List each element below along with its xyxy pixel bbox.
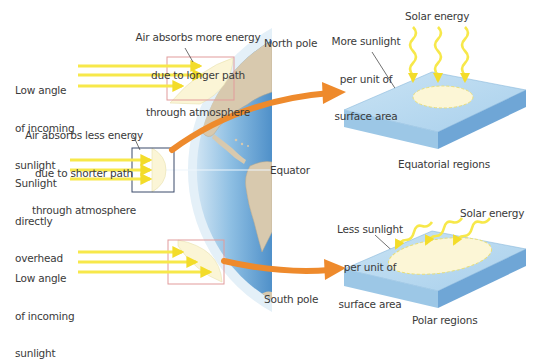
label-equator: Equator [270,164,310,177]
label-polar-regions: Polar regions [412,314,477,327]
label-south-pole: South pole [264,293,318,306]
label-north-pole: North pole [264,37,317,50]
direct-line-2: directly [15,215,63,228]
label-more-sunlight: More sunlight per unit of surface area [330,10,402,148]
less-sunlight-line-1: Less sunlight [334,223,406,236]
low-angle-bottom-line-1: Low angle [15,272,75,285]
more-sunlight-line-1: More sunlight [330,35,402,48]
low-angle-bottom-line-3: sunlight [15,347,75,360]
label-solar-energy-bottom: Solar energy [460,207,524,220]
less-sunlight-line-3: surface area [334,298,406,311]
low-angle-top-line-1: Low angle [15,84,75,97]
label-less-sunlight: Less sunlight per unit of surface area [334,198,406,336]
air-less-line-1: Air absorbs less energy [20,129,148,142]
sunlight-patch-equatorial [413,86,473,108]
more-sunlight-line-2: per unit of [330,73,402,86]
more-sunlight-line-3: surface area [330,110,402,123]
air-more-line-1: Air absorbs more energy [118,31,278,44]
direct-line-1: Sunlight [15,177,63,190]
less-sunlight-line-2: per unit of [334,261,406,274]
solar-waves-equatorial [410,27,468,81]
low-angle-bottom-line-2: of incoming [15,310,75,323]
air-more-line-2: due to longer path [118,69,278,82]
label-low-angle-bottom: Low angle of incoming sunlight [15,247,75,363]
label-solar-energy-top: Solar energy [405,10,469,23]
label-equatorial-regions: Equatorial regions [398,158,490,171]
